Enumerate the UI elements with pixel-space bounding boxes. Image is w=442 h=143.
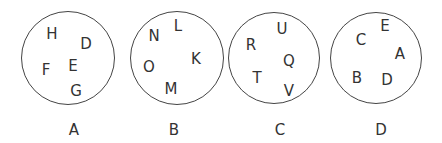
set-member: E xyxy=(380,19,389,34)
set-member: A xyxy=(395,47,405,62)
set-member: O xyxy=(143,60,155,75)
set-member: G xyxy=(70,84,82,99)
set-member: U xyxy=(277,22,288,37)
set-member: T xyxy=(252,71,261,86)
set-member: B xyxy=(352,71,362,86)
set-member: N xyxy=(148,29,159,44)
set-label: D xyxy=(375,123,387,138)
set-member: K xyxy=(191,52,201,67)
set-label: C xyxy=(275,123,285,138)
set-member: V xyxy=(284,84,294,99)
set-member: H xyxy=(46,27,57,42)
set-label: B xyxy=(169,123,179,138)
set-member: L xyxy=(174,19,182,34)
set-member: M xyxy=(165,82,178,97)
set-circle-c xyxy=(228,12,320,104)
set-member: D xyxy=(381,73,393,88)
set-label: A xyxy=(69,123,79,138)
set-member: F xyxy=(42,63,51,78)
set-circle-d xyxy=(330,12,422,104)
set-member: D xyxy=(80,37,92,52)
set-member: R xyxy=(246,38,256,53)
set-member: E xyxy=(68,59,77,74)
set-member: C xyxy=(356,33,366,48)
set-member: Q xyxy=(283,54,295,69)
